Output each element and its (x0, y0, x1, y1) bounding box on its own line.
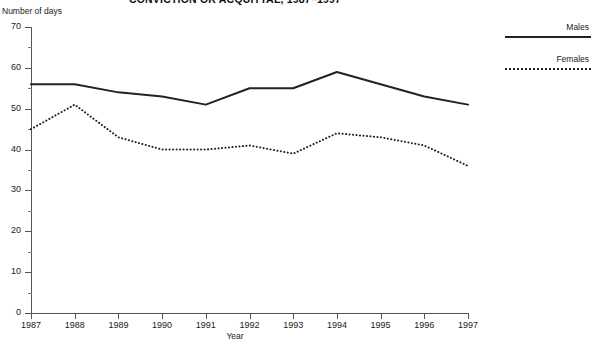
line-chart: CONVICTION OR ACQUITTAL, 1987–1997 Numbe… (0, 0, 593, 346)
y-tick-mark (25, 190, 32, 191)
y-tick-mark (25, 27, 32, 28)
x-tick-mark (424, 313, 425, 319)
series-line-males (31, 72, 468, 105)
x-tick-label: 1993 (273, 320, 313, 330)
chart-title: CONVICTION OR ACQUITTAL, 1987–1997 (0, 0, 470, 5)
x-tick-label: 1987 (11, 320, 51, 330)
y-minor-tick-mark (28, 293, 32, 294)
x-tick-mark (293, 313, 294, 319)
y-tick-label: 40 (0, 144, 21, 154)
legend-entry-females: Females (505, 54, 591, 73)
y-tick-mark (25, 109, 32, 110)
chart-legend: Males Females (505, 22, 591, 86)
x-tick-mark (31, 313, 32, 319)
legend-label-males: Males (505, 22, 591, 32)
x-tick-label: 1990 (142, 320, 182, 330)
x-tick-mark (381, 313, 382, 319)
y-tick-label: 30 (0, 184, 21, 194)
y-tick-mark (25, 231, 32, 232)
y-minor-tick-mark (28, 47, 32, 48)
legend-label-females: Females (505, 54, 591, 64)
legend-swatch-males-solid-line (505, 36, 591, 41)
x-tick-label: 1991 (186, 320, 226, 330)
y-tick-mark (25, 68, 32, 69)
y-minor-tick-mark (28, 129, 32, 130)
x-tick-mark (206, 313, 207, 319)
x-tick-label: 1994 (317, 320, 357, 330)
y-tick-label: 10 (0, 266, 21, 276)
y-minor-tick-mark (28, 252, 32, 253)
x-tick-label: 1996 (404, 320, 444, 330)
x-tick-label: 1989 (98, 320, 138, 330)
y-minor-tick-mark (28, 170, 32, 171)
y-minor-tick-mark (28, 88, 32, 89)
y-tick-label: 0 (0, 307, 21, 317)
x-axis-label: Year (0, 331, 470, 341)
y-tick-mark (25, 150, 32, 151)
legend-swatch-females-dotted-line (505, 68, 591, 73)
y-minor-tick-mark (28, 211, 32, 212)
x-tick-label: 1995 (361, 320, 401, 330)
x-tick-mark (162, 313, 163, 319)
y-tick-mark (25, 272, 32, 273)
series-line-females (31, 105, 468, 166)
x-tick-label: 1992 (230, 320, 270, 330)
y-tick-label: 70 (0, 21, 21, 31)
x-tick-mark (468, 313, 469, 319)
x-tick-mark (337, 313, 338, 319)
x-tick-mark (75, 313, 76, 319)
x-tick-label: 1997 (448, 320, 488, 330)
legend-entry-males: Males (505, 22, 591, 41)
y-tick-label: 50 (0, 103, 21, 113)
y-axis-label: Number of days (2, 6, 62, 16)
y-tick-label: 20 (0, 225, 21, 235)
x-tick-label: 1988 (55, 320, 95, 330)
x-tick-mark (250, 313, 251, 319)
y-tick-label: 60 (0, 62, 21, 72)
x-tick-mark (118, 313, 119, 319)
